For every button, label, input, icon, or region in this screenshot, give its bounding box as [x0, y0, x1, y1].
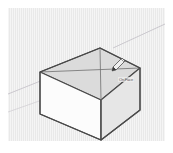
app-root: On Face — [0, 0, 173, 153]
ground-plane-line — [8, 100, 42, 112]
box-model[interactable] — [40, 48, 140, 140]
scene-canvas[interactable] — [8, 8, 165, 141]
modeling-viewport[interactable]: On Face — [8, 8, 165, 141]
green-axis-line — [113, 24, 165, 48]
